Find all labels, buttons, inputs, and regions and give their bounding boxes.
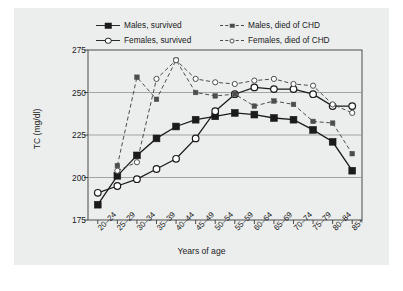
data-point: [154, 76, 159, 81]
data-point: [134, 160, 139, 165]
data-point: [272, 99, 277, 104]
x-tick-label: 35–39: [155, 210, 177, 232]
data-point: [310, 91, 317, 98]
data-point: [173, 58, 178, 63]
x-tick-label: 45–49: [194, 210, 216, 232]
data-point: [311, 119, 316, 124]
y-tick-label: 275: [60, 45, 86, 55]
data-point: [154, 97, 159, 102]
x-axis-ticks: 20–2425–2930–3435–3940–4445–4950–5455–59…: [88, 183, 376, 243]
data-point: [193, 76, 198, 81]
x-tick-label: 60–64: [252, 210, 274, 232]
data-point: [310, 127, 317, 134]
data-point: [290, 116, 297, 123]
y-axis-ticks: 175200225250275: [56, 8, 86, 265]
data-point: [115, 168, 120, 173]
data-point: [232, 81, 237, 86]
data-point: [192, 135, 199, 142]
data-point: [350, 110, 355, 115]
x-tick-label: 80–84: [331, 210, 353, 232]
chart-figure: Males, survived Males, died of CHD Femal…: [14, 8, 389, 265]
data-point: [213, 80, 218, 85]
data-point: [213, 94, 218, 99]
data-point: [135, 75, 140, 80]
data-point: [115, 163, 120, 168]
x-tick-label: 85+: [350, 216, 366, 232]
y-tick-label: 250: [60, 88, 86, 98]
x-tick-label: 50–54: [213, 210, 235, 232]
x-tick-label: 25–29: [115, 210, 137, 232]
data-point: [153, 135, 160, 142]
data-point: [193, 90, 198, 95]
data-point: [173, 123, 180, 130]
x-tick-label: 65–69: [272, 210, 294, 232]
data-point: [252, 104, 257, 109]
data-point: [350, 151, 355, 156]
data-point: [153, 166, 160, 173]
data-point: [251, 84, 258, 91]
x-tick-label: 75–79: [311, 210, 333, 232]
data-point: [252, 78, 257, 83]
data-point: [330, 121, 335, 126]
data-point: [330, 102, 335, 107]
y-tick-label: 200: [60, 173, 86, 183]
data-point: [271, 115, 278, 122]
plot-area: 175200225250275 20–2425–2930–3435–3940–4…: [14, 8, 389, 265]
x-tick-label: 30–34: [135, 210, 157, 232]
data-point: [231, 110, 238, 117]
data-point: [310, 83, 315, 88]
data-point: [271, 76, 276, 81]
x-tick-label: 70–74: [292, 210, 314, 232]
data-point: [134, 152, 141, 159]
y-axis-label: TC (mg/dl): [32, 94, 42, 164]
data-point: [134, 176, 141, 183]
data-point: [349, 167, 356, 174]
x-tick-label: 20–24: [96, 210, 118, 232]
data-point: [329, 138, 336, 145]
data-point: [192, 116, 199, 123]
data-point: [271, 86, 278, 93]
x-tick-label: 55–59: [233, 210, 255, 232]
data-point: [291, 102, 296, 107]
data-point: [251, 111, 258, 118]
data-point: [212, 108, 219, 115]
data-point: [232, 92, 237, 97]
y-tick-label: 175: [60, 215, 86, 225]
y-tick-label: 225: [60, 130, 86, 140]
x-axis-label: Years of age: [14, 246, 389, 256]
data-point: [173, 156, 180, 163]
x-tick-label: 40–44: [174, 210, 196, 232]
data-point: [291, 81, 296, 86]
data-point: [349, 103, 356, 110]
